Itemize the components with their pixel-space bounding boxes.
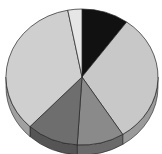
pie-chart: [0, 0, 162, 154]
pie-slices: [6, 9, 158, 145]
